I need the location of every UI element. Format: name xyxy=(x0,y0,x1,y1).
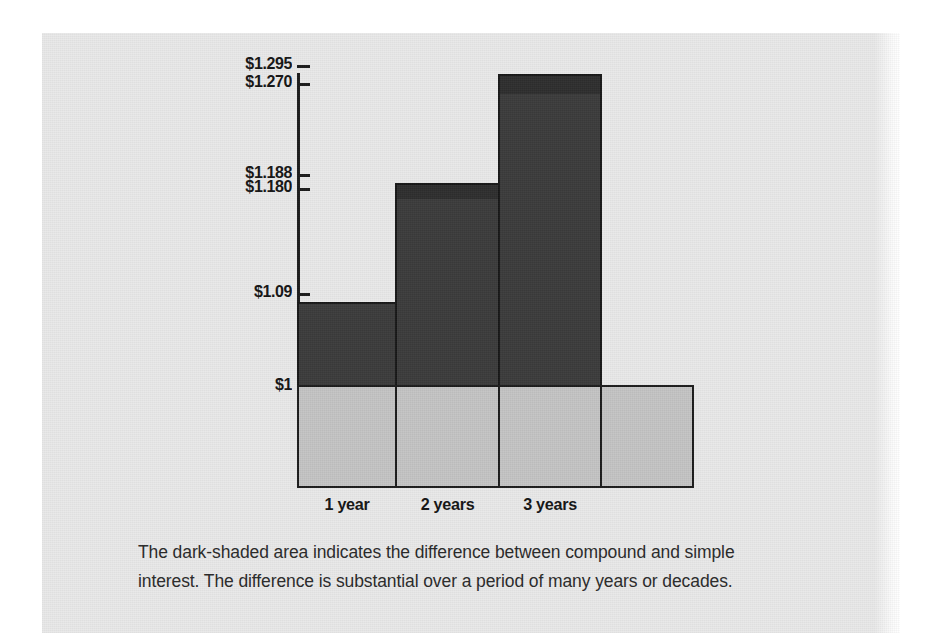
y-tick-label-1295: $1.295 xyxy=(142,54,292,74)
y-tick-label-wrap-1180: $1.180 xyxy=(127,177,292,197)
page-edge-shading xyxy=(874,33,900,633)
caption-line-2: interest. The difference is substantial … xyxy=(138,567,858,596)
bar-year2-compound xyxy=(395,183,500,199)
bar-year1-simple xyxy=(297,302,397,387)
base-cell-4 xyxy=(600,385,694,488)
y-tick-label-1180: $1.180 xyxy=(142,177,292,197)
base-cell-1 xyxy=(297,385,397,488)
y-tick-label-109: $1.09 xyxy=(142,282,292,302)
chart-plot-area: $1.295 $1.270 $1.188 $1.180 $1.09 $1 xyxy=(42,33,900,503)
y-tick-label-wrap-1295: $1.295 xyxy=(127,54,292,74)
caption-line-1: The dark-shaded area indicates the diffe… xyxy=(138,538,858,567)
y-tick-1188 xyxy=(297,174,310,177)
y-tick-label-1: $1 xyxy=(142,375,292,395)
y-tick-1295 xyxy=(297,65,310,68)
base-cell-2 xyxy=(395,385,500,488)
y-tick-1180 xyxy=(297,188,310,191)
figure-panel: $1.295 $1.270 $1.188 $1.180 $1.09 $1 xyxy=(42,33,900,633)
y-tick-label-wrap-1270: $1.270 xyxy=(127,72,292,92)
y-tick-1270 xyxy=(297,83,310,86)
x-label-1-year: 1 year xyxy=(300,495,395,515)
x-label-3-years: 3 years xyxy=(501,495,600,515)
y-tick-label-wrap-1: $1 xyxy=(127,375,292,395)
bar-year3-simple xyxy=(498,92,602,387)
x-label-2-years: 2 years xyxy=(398,495,498,515)
figure-caption: The dark-shaded area indicates the diffe… xyxy=(138,538,858,596)
bar-year3-compound xyxy=(498,74,602,94)
base-cell-3 xyxy=(498,385,602,488)
y-tick-label-wrap-109: $1.09 xyxy=(127,282,292,302)
y-tick-label-1270: $1.270 xyxy=(142,72,292,92)
y-tick-109 xyxy=(297,293,310,296)
bar-year2-simple xyxy=(395,197,500,387)
